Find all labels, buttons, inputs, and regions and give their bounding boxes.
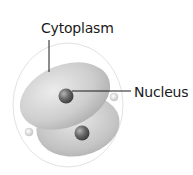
- polar-body-right: [110, 93, 118, 101]
- nucleus-upper: [59, 89, 74, 104]
- nucleus-lower: [75, 126, 90, 141]
- polar-body-left: [25, 128, 33, 136]
- nucleus-label: Nucleus: [134, 85, 188, 99]
- cytoplasm-label: Cytoplasm: [41, 21, 114, 35]
